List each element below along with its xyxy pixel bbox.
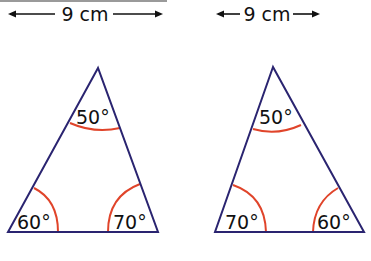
right-bottom-right-angle-label: 60° — [317, 211, 351, 233]
right-triangle-shape — [215, 67, 364, 232]
triangles-diagram: 9 cm 9 cm 50° 60° 70° 50° 70° 60° — [0, 0, 371, 261]
right-bottom-left-angle-label: 70° — [225, 211, 259, 233]
left-bottom-right-angle-label: 70° — [113, 211, 147, 233]
right-dimension-label: 9 cm — [243, 3, 290, 25]
left-top-angle-label: 50° — [76, 106, 110, 128]
right-triangle: 50° 70° 60° — [215, 67, 364, 233]
left-triangle-shape — [8, 68, 158, 232]
left-dimension-label: 9 cm — [61, 3, 108, 25]
right-top-angle-label: 50° — [259, 106, 293, 128]
left-bottom-left-angle-label: 60° — [17, 211, 51, 233]
left-triangle: 50° 60° 70° — [8, 68, 158, 233]
